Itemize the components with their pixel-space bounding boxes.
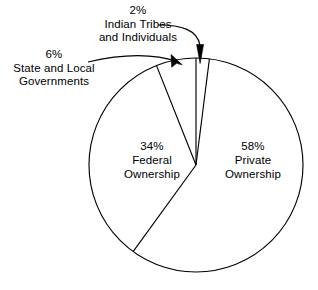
callout-label-indian-tribes: 2% Indian Tribes and Individuals [82, 4, 194, 45]
callout-text-indian-tribes-line1: Indian Tribes [82, 18, 194, 32]
slice-percent-federal: 34% [112, 139, 192, 153]
callout-text-state-local-line2: Governments [2, 75, 106, 89]
slice-text-federal-line2: Ownership [112, 167, 192, 181]
callout-text-indian-tribes-line2: and Individuals [82, 31, 194, 45]
slice-label-private-ownership: 58% Private Ownership [213, 139, 293, 181]
slice-text-private-line1: Private [213, 153, 293, 167]
slice-text-private-line2: Ownership [213, 167, 293, 181]
callout-percent-indian-tribes: 2% [82, 4, 194, 18]
slice-percent-private: 58% [213, 139, 293, 153]
slice-label-federal-ownership: 34% Federal Ownership [112, 139, 192, 181]
callout-label-state-local: 6% State and Local Governments [2, 48, 106, 89]
pie-chart-figure: 2% Indian Tribes and Individuals 6% Stat… [0, 0, 318, 290]
callout-percent-state-local: 6% [2, 48, 106, 62]
slice-text-federal-line1: Federal [112, 153, 192, 167]
callout-text-state-local-line1: State and Local [2, 62, 106, 76]
